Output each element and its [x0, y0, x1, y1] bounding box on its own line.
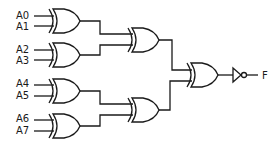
xor-gate-4: [49, 114, 80, 138]
input-label-a0: A0: [16, 10, 29, 21]
xor-gate-3: [49, 79, 80, 103]
logic-circuit-diagram: A0 A1 A2 A3 A4 A5 A6 A7: [0, 0, 279, 145]
input-label-a5: A5: [16, 90, 29, 101]
xor-gate-1: [49, 9, 80, 33]
xor-gate-2: [49, 43, 80, 67]
not-gate: [233, 68, 247, 82]
xor-gate-5: [128, 28, 159, 52]
xor-gate-7: [187, 63, 218, 87]
input-label-a6: A6: [16, 113, 29, 124]
level2-output-wires: [159, 40, 192, 110]
input-label-a1: A1: [16, 21, 29, 32]
input-label-a2: A2: [16, 44, 29, 55]
input-wires: [34, 16, 54, 131]
output-label-f: F: [262, 70, 268, 81]
input-label-a7: A7: [16, 125, 29, 136]
input-label-a4: A4: [16, 78, 29, 89]
input-label-a3: A3: [16, 55, 29, 66]
xor-gate-6: [128, 98, 159, 122]
level1-output-wires: [80, 21, 133, 126]
